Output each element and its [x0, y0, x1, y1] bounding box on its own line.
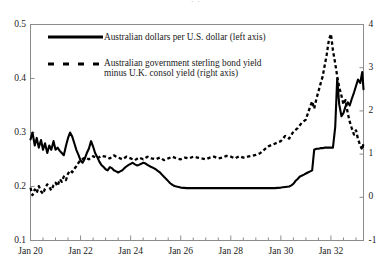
legend-samples [48, 37, 103, 64]
left-tick-0.1: 0.1 [0, 235, 26, 245]
left-tick-0.4: 0.4 [0, 73, 26, 83]
legend-label-dashed-line1: Australian government sterling bond yiel… [104, 58, 262, 68]
legend-label-dashed-line2: minus U.K. consol yield (right axis) [104, 68, 262, 78]
axis-ticks [31, 25, 364, 241]
right-tick-2: 2 [369, 105, 389, 115]
right-tick--1: -1 [369, 235, 389, 245]
figure-container: · · 0.10.20.30.40.5 -101234 Jan 20Jan 22… [0, 0, 391, 268]
axes-frame [31, 25, 364, 241]
right-tick-3: 3 [369, 62, 389, 72]
left-tick-0.5: 0.5 [0, 19, 26, 29]
left-tick-0.3: 0.3 [0, 127, 26, 137]
series-aud-per-usd [31, 72, 364, 188]
x-tick-jan-32: Jan 32 [301, 246, 361, 256]
legend-label-solid: Australian dollars per U.S. dollar (left… [104, 32, 266, 42]
legend-label-dashed: Australian government sterling bond yiel… [104, 58, 262, 79]
left-tick-0.2: 0.2 [0, 181, 26, 191]
right-tick-1: 1 [369, 148, 389, 158]
right-tick-0: 0 [369, 191, 389, 201]
right-tick-4: 4 [369, 19, 389, 29]
